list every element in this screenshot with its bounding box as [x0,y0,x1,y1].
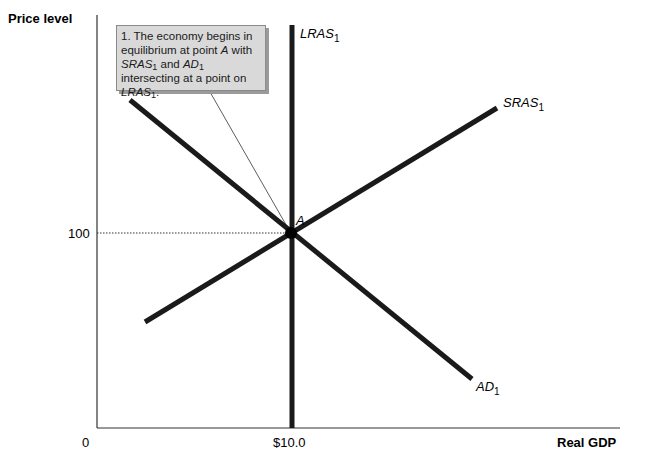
callout-ad: AD [183,58,199,70]
y-axis-label: Price level [8,11,72,26]
equilibrium-point-a [285,227,297,239]
ad-label: AD1 [475,379,500,397]
callout-text: and [157,58,183,70]
callout-text: with [228,44,252,56]
callout-sub: 1 [199,62,204,72]
callout-pointer [210,92,289,230]
callout-text: . [156,86,159,98]
callout-text: intersecting at a point on [121,72,246,84]
origin-label: 0 [82,435,89,450]
callout-lras: LRAS [121,86,151,98]
chart-canvas: Price level Real GDP 0 $10.0 100 LRAS1 S… [0,0,646,465]
sras-curve [145,108,497,322]
ad-curve [130,100,472,379]
lras-label: LRAS1 [300,26,340,44]
annotation-callout: 1. The economy begins in equilibrium at … [116,25,266,91]
x-axis-label: Real GDP [557,435,617,450]
sras-label: SRAS1 [503,95,544,113]
callout-sras: SRAS [121,58,152,70]
point-a-label: A [295,213,305,228]
x-tick-10: $10.0 [273,435,306,450]
y-tick-100: 100 [68,226,90,241]
